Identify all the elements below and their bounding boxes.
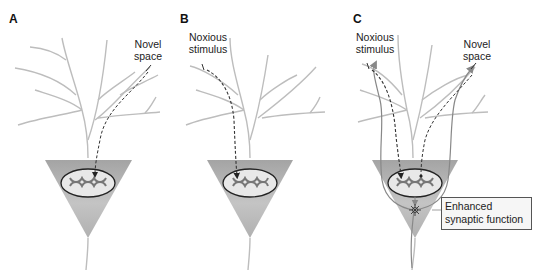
panel-label-b: B bbox=[180, 12, 189, 26]
annotation-noxious-stimulus-c: Noxious stimulus bbox=[352, 31, 398, 55]
panel-b bbox=[186, 38, 325, 270]
synapse-marker-icon bbox=[146, 65, 151, 71]
panel-c bbox=[358, 35, 488, 270]
annotation-novel-space-a: Novel space bbox=[131, 38, 165, 62]
panel-label-a: A bbox=[9, 12, 18, 26]
enhanced-synaptic-function-callout: Enhanced synaptic function bbox=[441, 197, 532, 230]
panel-a bbox=[15, 38, 160, 270]
dendrite-tree-icon bbox=[186, 38, 325, 158]
axon-icon bbox=[412, 238, 415, 270]
annotation-novel-space-c: Novel space bbox=[460, 38, 494, 62]
axon-icon bbox=[86, 238, 88, 270]
annotation-noxious-stimulus-b: Noxious stimulus bbox=[185, 31, 231, 55]
signal-arrow-icon bbox=[95, 72, 148, 175]
axon-icon bbox=[248, 238, 250, 270]
panel-label-c: C bbox=[353, 12, 362, 26]
synapse-marker-icon bbox=[202, 64, 204, 70]
